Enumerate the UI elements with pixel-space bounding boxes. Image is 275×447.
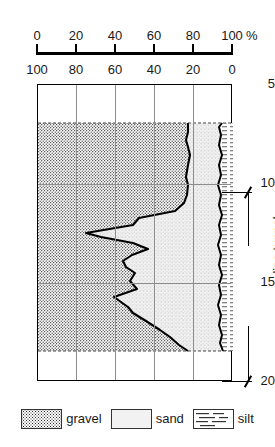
sand-swatch-icon	[111, 409, 152, 429]
top-tick-label-60: 60	[147, 28, 161, 44]
axis-tick-40	[114, 44, 116, 55]
tunnel-dim-line-upper	[248, 192, 249, 246]
top-tick-label-0: 0	[33, 28, 40, 44]
top-axis-labels: 0 20 40 60 80 100 %	[0, 28, 275, 44]
silt-swatch-icon	[193, 409, 234, 429]
tunnel-dim-line-lower	[248, 326, 249, 382]
bottom-tick-label-60: 60	[108, 62, 122, 78]
bottom-tick-label-0: 0	[228, 62, 235, 78]
axis-tick-100	[231, 44, 233, 55]
strata-graphic	[38, 85, 233, 382]
top-tick-label-100: 100	[221, 28, 243, 44]
legend-label-sand: sand	[156, 412, 184, 426]
legend-label-silt: silt	[238, 412, 254, 426]
legend-item-sand: sand	[111, 409, 184, 429]
line-tunnel-annotation: line tunnel	[236, 186, 275, 382]
bottom-tick-label-80: 80	[69, 62, 83, 78]
bottom-axis-labels: 100 80 60 40 20 0	[0, 62, 275, 78]
legend-item-silt: silt	[193, 409, 254, 429]
axis-tick-20	[75, 44, 77, 55]
axis-tick-60	[153, 44, 155, 55]
axis-tick-80	[192, 44, 194, 55]
bottom-tick-label-20: 20	[186, 62, 200, 78]
axis-tick-0	[36, 44, 38, 55]
vertical-gridline-40	[154, 85, 155, 380]
vertical-gridline-80	[76, 85, 77, 380]
vertical-gridline-20	[193, 85, 194, 380]
line-tunnel-label: line tunnel	[271, 199, 275, 291]
bottom-tick-label-40: 40	[147, 62, 161, 78]
silt-lines-icon	[194, 410, 233, 428]
top-tick-label-80: 80	[186, 28, 200, 44]
top-tick-label-20: 20	[69, 28, 83, 44]
bottom-tick-label-100: 100	[26, 62, 48, 78]
grain-size-depth-profile-figure: 0 20 40 60 80 100 % 100 80 60 40 20 0 5 …	[0, 0, 275, 447]
horizontal-gridline-15	[38, 283, 231, 284]
depth-tick-label-5: 5	[245, 77, 275, 91]
legend: gravel sand silt	[0, 404, 275, 434]
profile-plot-area	[37, 84, 232, 381]
percentage-axis-bar	[37, 52, 232, 55]
vertical-gridline-60	[115, 85, 116, 380]
horizontal-gridline-10	[38, 184, 231, 185]
top-tick-label-40: 40	[108, 28, 122, 44]
gravel-swatch-icon	[21, 409, 62, 429]
percent-unit-label: %	[246, 28, 258, 44]
legend-label-gravel: gravel	[66, 412, 101, 426]
legend-item-gravel: gravel	[21, 409, 101, 429]
